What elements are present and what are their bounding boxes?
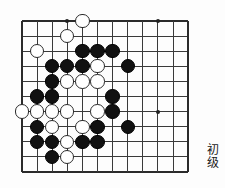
black-stone[interactable] (90, 120, 104, 134)
white-stone[interactable] (75, 74, 89, 88)
white-stone[interactable] (90, 74, 104, 88)
white-stone[interactable] (60, 135, 74, 149)
white-stone[interactable] (30, 104, 44, 118)
black-stone[interactable] (121, 59, 135, 73)
black-stone[interactable] (105, 44, 119, 58)
black-stone[interactable] (105, 104, 119, 118)
board-line-vertical (21, 21, 23, 172)
black-stone[interactable] (45, 89, 59, 103)
star-point (156, 110, 160, 114)
board-line-vertical (142, 21, 143, 172)
white-stone[interactable] (30, 44, 44, 58)
black-stone[interactable] (45, 59, 59, 73)
go-problem-diagram: 初 级 (0, 0, 225, 188)
white-stone[interactable] (90, 59, 104, 73)
board-line-horizontal (22, 171, 188, 173)
black-stone[interactable] (45, 74, 59, 88)
board-line-vertical (187, 21, 189, 172)
difficulty-level-label: 初 级 (205, 144, 221, 170)
board-line-vertical (157, 21, 158, 172)
black-stone[interactable] (75, 44, 89, 58)
black-stone[interactable] (75, 59, 89, 73)
board-line-vertical (127, 21, 128, 172)
white-stone[interactable] (90, 104, 104, 118)
board-line-horizontal (22, 20, 188, 22)
black-stone[interactable] (30, 120, 44, 134)
black-stone[interactable] (30, 89, 44, 103)
white-stone[interactable] (45, 120, 59, 134)
white-stone[interactable] (75, 120, 89, 134)
black-stone[interactable] (105, 89, 119, 103)
board-line-horizontal (22, 36, 188, 37)
black-stone[interactable] (45, 135, 59, 149)
black-stone[interactable] (90, 44, 104, 58)
white-stone[interactable] (60, 150, 74, 164)
white-stone[interactable] (60, 29, 74, 43)
white-stone[interactable] (15, 104, 29, 118)
level-char-second: 级 (205, 157, 221, 170)
white-stone[interactable] (75, 14, 89, 28)
black-stone[interactable] (121, 120, 135, 134)
white-stone[interactable] (60, 104, 74, 118)
black-stone[interactable] (45, 150, 59, 164)
star-point (65, 19, 69, 23)
black-stone[interactable] (60, 59, 74, 73)
black-stone[interactable] (30, 135, 44, 149)
star-point (156, 19, 160, 23)
board-line-vertical (173, 21, 174, 172)
white-stone[interactable] (45, 104, 59, 118)
black-stone[interactable] (90, 135, 104, 149)
go-board[interactable] (0, 0, 225, 188)
white-stone[interactable] (60, 74, 74, 88)
black-stone[interactable] (75, 135, 89, 149)
